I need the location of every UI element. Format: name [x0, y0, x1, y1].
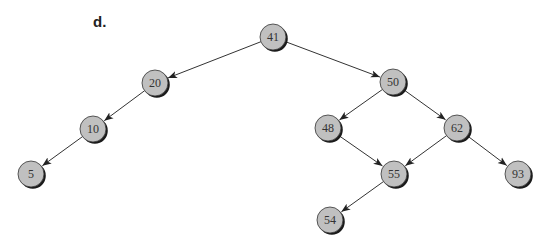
node-value: 93	[512, 167, 524, 181]
edge-62-to-93	[467, 136, 506, 166]
graph-canvas: 4120501048625559354	[0, 0, 548, 251]
node-value: 41	[267, 30, 279, 44]
edge-50-to-62	[404, 90, 446, 120]
nodes-layer: 4120501048625559354	[18, 24, 533, 235]
edge-50-to-48	[339, 90, 382, 120]
node-value: 62	[451, 121, 463, 135]
node-50: 50	[380, 69, 408, 97]
node-value: 5	[28, 167, 34, 181]
figure-label: d.	[93, 13, 106, 30]
edge-48-to-55	[339, 135, 383, 166]
node-48: 48	[315, 115, 343, 143]
node-value: 10	[87, 122, 99, 136]
edge-20-to-10	[104, 91, 144, 121]
node-20: 20	[142, 70, 170, 98]
graph-diagram: d. 4120501048625559354	[0, 0, 548, 251]
node-10: 10	[80, 116, 108, 144]
node-value: 48	[322, 121, 334, 135]
node-value: 20	[149, 76, 161, 90]
node-93: 93	[505, 161, 533, 189]
edge-62-to-55	[405, 136, 446, 166]
node-41: 41	[260, 24, 288, 52]
edge-41-to-20	[168, 42, 261, 78]
edge-55-to-54	[341, 182, 383, 212]
edges-layer	[42, 42, 506, 212]
node-value: 55	[388, 167, 400, 181]
node-5: 5	[18, 161, 46, 189]
edge-10-to-5	[42, 137, 82, 166]
node-value: 50	[387, 75, 399, 89]
node-55: 55	[381, 161, 409, 189]
node-value: 54	[324, 213, 336, 227]
edge-41-to-50	[285, 42, 380, 78]
node-54: 54	[317, 207, 345, 235]
node-62: 62	[444, 115, 472, 143]
